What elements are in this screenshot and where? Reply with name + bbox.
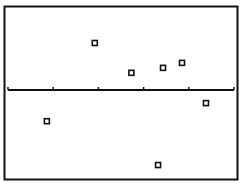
data-point-4 — [161, 65, 166, 70]
data-point-0 — [44, 119, 49, 124]
data-point-5 — [180, 60, 185, 65]
x-axis — [8, 87, 234, 90]
scatter-plot — [0, 0, 250, 186]
plot-frame — [5, 7, 238, 180]
data-point-6 — [203, 101, 208, 106]
data-point-1 — [92, 40, 97, 45]
data-points — [44, 40, 208, 167]
data-point-3 — [156, 163, 161, 168]
data-point-2 — [129, 70, 134, 75]
